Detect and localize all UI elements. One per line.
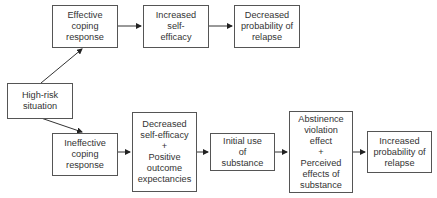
node-label: Increased self- efficacy <box>156 10 196 43</box>
node-increased-probability-of-relapse: Increased probability of relapse <box>367 131 432 173</box>
node-label: Increased probability of relapse <box>373 136 425 169</box>
node-decreased-self-efficacy-positive-outcome: Decreased self-efficacy + Positive outco… <box>132 112 197 192</box>
node-label: Effective coping response <box>66 10 104 43</box>
node-ineffective-coping-response: Ineffective coping response <box>52 133 118 176</box>
node-label: Initial use of substance <box>222 136 264 169</box>
node-increased-self-efficacy: Increased self- efficacy <box>143 5 209 48</box>
node-label: Ineffective coping response <box>64 138 106 171</box>
node-abstinence-violation-effect: Abstinence violation effect + Perceived … <box>289 111 353 193</box>
node-initial-use-of-substance: Initial use of substance <box>210 133 275 171</box>
node-high-risk-situation: High-risk situation <box>7 83 73 119</box>
node-label: High-risk situation <box>22 90 58 112</box>
node-label: Abstinence violation effect + Perceived … <box>298 114 343 191</box>
node-effective-coping-response: Effective coping response <box>52 5 118 48</box>
node-label: Decreased self-efficacy + Positive outco… <box>138 119 192 185</box>
node-label: Decreased probability of relapse <box>241 10 293 43</box>
node-decreased-probability-of-relapse: Decreased probability of relapse <box>234 5 300 48</box>
